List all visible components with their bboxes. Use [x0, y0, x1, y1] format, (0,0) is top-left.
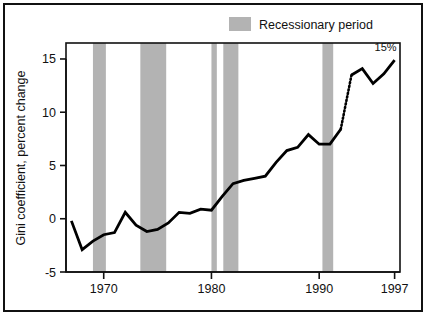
y-axis-tick-label: -5: [45, 266, 56, 280]
y-axis: -5051015: [42, 52, 66, 279]
annotations-group: 15%: [375, 41, 397, 53]
recession-band-swatch: [229, 17, 251, 31]
recession-band: [322, 43, 333, 272]
plot-area: [66, 43, 400, 272]
x-axis-tick-label: 1970: [90, 282, 118, 296]
recession-band: [140, 43, 166, 272]
y-axis-tick-label: 5: [49, 159, 56, 173]
y-axis-tick-label: 15: [42, 52, 56, 66]
y-axis-tick-label: 0: [49, 212, 56, 226]
recession-band: [223, 43, 238, 272]
legend-label: Recessionary period: [259, 18, 373, 32]
x-axis-tick-label: 1990: [305, 282, 333, 296]
x-axis-tick-label: 1997: [381, 282, 409, 296]
gini-coefficient-line-chart: Recessionary period -5051015 19701980199…: [0, 0, 426, 315]
y-axis-title: Gini coefficient, percent change: [14, 71, 28, 246]
value-annotation: 15%: [375, 41, 397, 53]
chart-figure: Recessionary period -5051015 19701980199…: [0, 0, 426, 315]
recession-band: [211, 43, 216, 272]
y-axis-tick-label: 10: [42, 106, 56, 120]
chart-legend: Recessionary period: [229, 17, 373, 32]
x-axis-tick-label: 1980: [198, 282, 226, 296]
x-axis: 1970198019901997: [66, 272, 409, 296]
